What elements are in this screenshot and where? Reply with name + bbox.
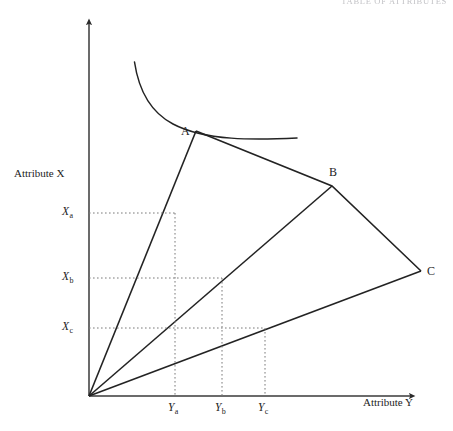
tick-base-xa: X bbox=[62, 205, 69, 217]
point-label-a: A bbox=[181, 124, 190, 139]
tick-sub-yc: c bbox=[265, 407, 269, 416]
tick-base-yc: Y bbox=[258, 401, 264, 413]
tick-label-xb: Xb bbox=[62, 270, 73, 282]
tick-label-xa: Xa bbox=[62, 205, 73, 217]
ray-origin-to-b bbox=[89, 186, 332, 396]
point-label-c: C bbox=[427, 264, 435, 279]
indifference-curve bbox=[135, 62, 298, 139]
tick-sub-xc: c bbox=[69, 326, 73, 335]
ray-origin-to-c bbox=[89, 271, 421, 396]
tick-sub-xb: b bbox=[69, 276, 73, 285]
tick-base-xc: X bbox=[62, 320, 69, 332]
y-axis-title: Attribute X bbox=[14, 167, 64, 179]
tick-label-ya: Ya bbox=[168, 401, 178, 413]
tick-sub-yb: b bbox=[222, 407, 226, 416]
frontier-polyline-abc bbox=[196, 131, 421, 271]
figure-container: TABLE OF ATTRIBUTES Attribute bbox=[0, 0, 453, 431]
tick-base-yb: Y bbox=[215, 401, 221, 413]
tick-sub-ya: a bbox=[175, 407, 179, 416]
tick-label-yb: Yb bbox=[215, 401, 225, 413]
x-axis-title: Attribute Y bbox=[363, 396, 413, 408]
tick-label-yc: Yc bbox=[258, 401, 268, 413]
tick-sub-xa: a bbox=[69, 211, 73, 220]
point-label-b: B bbox=[329, 165, 337, 180]
tick-base-xb: X bbox=[62, 270, 69, 282]
ray-origin-to-a bbox=[89, 131, 196, 396]
tick-base-ya: Y bbox=[168, 401, 174, 413]
tick-label-xc: Xc bbox=[62, 320, 73, 332]
